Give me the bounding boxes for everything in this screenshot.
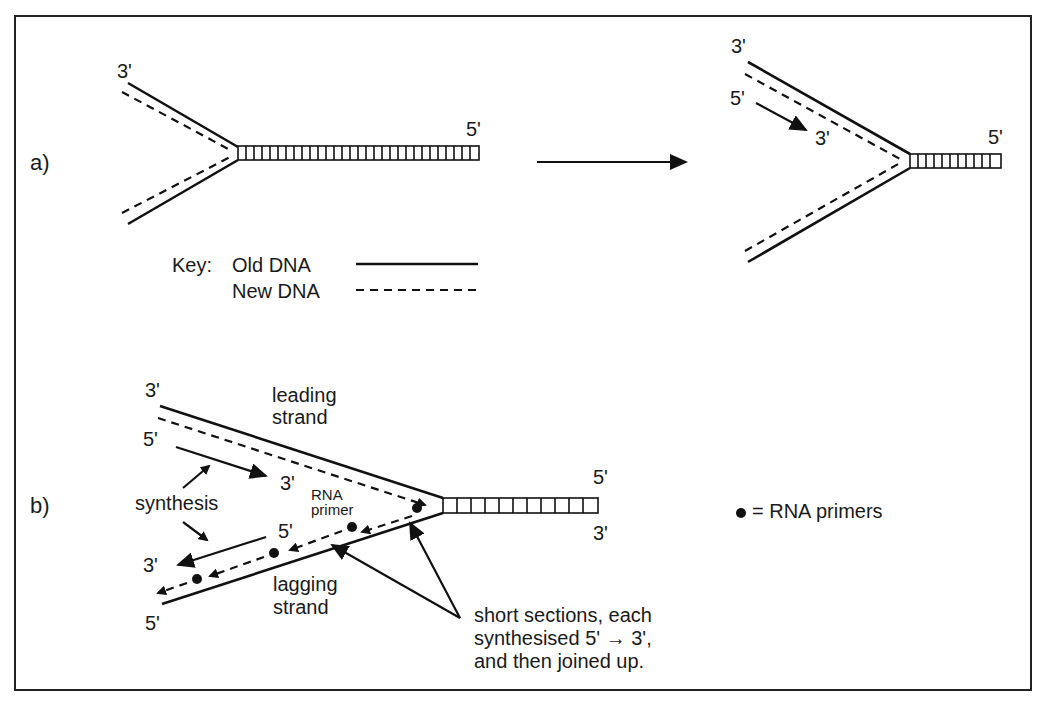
synthesis-pointer-up-icon <box>183 466 209 488</box>
note-line-2: synthesised 5' → 3', <box>474 627 652 649</box>
rna-primer-legend: = RNA primers <box>736 500 883 522</box>
new-strand-3prime-label: 3' <box>815 127 830 149</box>
new-strand-bottom <box>745 163 900 251</box>
synthesis-label: synthesis <box>135 492 218 514</box>
end-label-3prime: 3' <box>117 60 132 82</box>
panel-a-label: a) <box>30 150 50 175</box>
rna-primer-dot-icon <box>192 574 202 584</box>
bottom-left-5prime: 5' <box>145 612 160 634</box>
key-old-dna-label: Old DNA <box>232 254 312 276</box>
new-strand-top <box>122 92 232 151</box>
key-new-dna-label: New DNA <box>232 280 320 302</box>
synthesis-direction-arrow-icon <box>756 103 806 130</box>
old-strand-top <box>128 83 238 147</box>
double-helix-ladder <box>238 146 479 160</box>
lagging-new-5prime: 5' <box>278 520 293 542</box>
end-label-5prime: 5' <box>466 118 481 140</box>
rna-primer-legend-label: = RNA primers <box>752 500 883 522</box>
okazaki-fragment <box>158 583 187 593</box>
key-prefix: Key: <box>172 254 212 276</box>
old-strand-bottom <box>748 168 910 262</box>
leading-strand-label-1: leading <box>272 384 337 406</box>
right-end-3prime: 3' <box>593 522 608 544</box>
double-helix-ladder <box>443 498 598 513</box>
panel-b: b) 5' 3' 3' leading strand 5' 3' synthes… <box>30 379 883 672</box>
fork-before: 3' 5' <box>117 60 481 224</box>
dna-replication-diagram: a) 3' 5' 3' 5' 3' <box>0 0 1047 708</box>
end-label-3prime: 3' <box>731 35 746 57</box>
panel-a: a) 3' 5' 3' 5' 3' <box>30 35 1003 302</box>
rna-primer-dot-icon <box>269 548 279 558</box>
top-left-3prime: 3' <box>145 379 160 401</box>
leading-strand-label-2: strand <box>272 406 328 428</box>
rna-primer-dot-icon <box>347 522 357 532</box>
right-end-5prime: 5' <box>593 466 608 488</box>
legend-key: Key: Old DNA New DNA <box>172 254 478 302</box>
double-helix-ladder <box>910 154 1001 168</box>
note-line-3: and then joined up. <box>474 650 644 672</box>
fork-after: 3' 5' 3' 5' <box>730 35 1003 262</box>
leading-new-5prime: 5' <box>143 428 158 450</box>
lagging-strand-label-1: lagging <box>273 573 338 595</box>
panel-b-label: b) <box>30 493 50 518</box>
new-strand-bottom <box>122 156 232 213</box>
rna-primer-dot-icon <box>736 508 746 518</box>
leading-new-3prime: 3' <box>280 472 295 494</box>
synthesis-pointer-down-icon <box>183 522 207 540</box>
lagging-synthesis-arrow-icon <box>178 537 266 565</box>
lagging-strand-label-2: strand <box>273 596 329 618</box>
old-strand-bottom <box>128 160 238 224</box>
okazaki-fragment <box>362 516 412 532</box>
note-line-1: short sections, each <box>474 604 652 626</box>
leading-synthesis-arrow-icon <box>176 447 266 476</box>
new-strand-5prime-label: 5' <box>730 87 745 109</box>
rna-primer-dot-icon <box>412 503 422 513</box>
rna-primer-label-2: primer <box>311 501 354 518</box>
lagging-new-3prime: 3' <box>143 554 158 576</box>
end-label-5prime: 5' <box>988 126 1003 148</box>
